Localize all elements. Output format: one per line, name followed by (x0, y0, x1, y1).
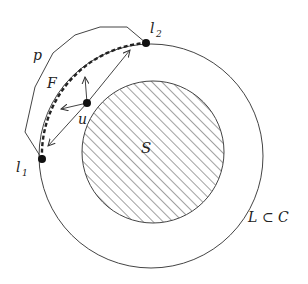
point-u (83, 99, 91, 107)
label-p: p (33, 47, 42, 63)
label-S: S (141, 139, 151, 157)
arrow-u-left (61, 103, 87, 109)
point-l2 (142, 39, 150, 47)
label-l2: l (150, 20, 154, 36)
point-l1 (38, 155, 46, 163)
label-L-subset-C: L ⊂ C (247, 209, 289, 225)
label-l2-sub: 2 (155, 29, 162, 39)
label-F: F (46, 75, 58, 91)
label-u: u (78, 111, 87, 127)
inner-circle-S (82, 81, 224, 223)
diagram-svg: p F u S l 1 l 2 L ⊂ C (0, 0, 308, 284)
label-l1-sub: 1 (22, 168, 28, 178)
label-l1: l (16, 159, 20, 175)
diagram-canvas: p F u S l 1 l 2 L ⊂ C (0, 0, 308, 284)
